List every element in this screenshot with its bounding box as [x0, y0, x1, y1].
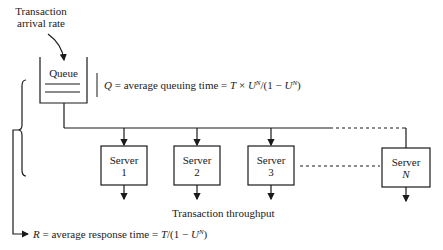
queue-formula: Q = average queuing time = T × UN/(1 − U… — [104, 79, 301, 91]
server-n-label: Server N — [383, 156, 429, 180]
arrival-label-line2: arrival rate — [6, 17, 76, 29]
response-arrow — [13, 130, 28, 234]
server-1-label: Server 1 — [101, 154, 147, 178]
arrival-label: Transaction arrival rate — [6, 5, 76, 29]
arrival-label-line1: Transaction — [6, 5, 76, 17]
server-3-label: Server 3 — [248, 154, 294, 178]
server-2-label: Server 2 — [174, 154, 220, 178]
queue-label: Queue — [40, 67, 87, 79]
brace — [18, 80, 26, 176]
response-formula: R = average response time = T/(1 − UN) — [33, 228, 207, 240]
arrival-arrow — [48, 34, 64, 60]
queue-box — [40, 57, 87, 103]
throughput-label: Transaction throughput — [172, 207, 275, 219]
